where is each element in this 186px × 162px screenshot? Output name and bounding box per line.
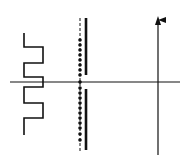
diagram-canvas — [0, 0, 186, 162]
diagram-svg — [0, 0, 186, 162]
square-wave — [24, 33, 43, 135]
arrowhead-icon — [155, 16, 161, 25]
